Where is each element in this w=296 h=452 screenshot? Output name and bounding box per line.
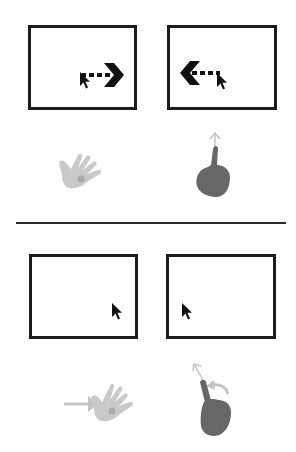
screen-top-right: [167, 25, 277, 110]
point-rotate-gesture-icon: [190, 362, 242, 442]
cursor-icon: [80, 72, 92, 90]
dashed-arrow-right-icon: [28, 25, 137, 110]
diagram-title: Gesture to cursor mapping diagram: [0, 0, 1, 1]
screen-bottom-left: [29, 254, 138, 339]
screen-top-left: [28, 25, 137, 110]
dashed-arrow-left-icon: [167, 25, 277, 110]
open-hand-icon: [58, 153, 118, 195]
open-hand-push-icon: [62, 380, 152, 426]
cursor-icon: [182, 303, 194, 321]
screen-bottom-right: [166, 254, 276, 339]
point-up-gesture-icon: [193, 131, 233, 201]
cursor-icon: [217, 73, 229, 91]
section-divider: [16, 222, 286, 224]
cursor-icon: [112, 303, 124, 321]
